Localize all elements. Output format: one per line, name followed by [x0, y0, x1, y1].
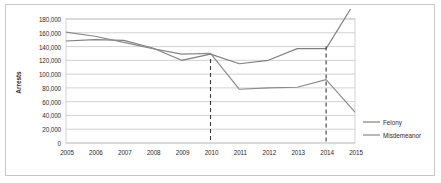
- chart-plot-svg: [0, 0, 441, 183]
- legend-group: [363, 122, 380, 135]
